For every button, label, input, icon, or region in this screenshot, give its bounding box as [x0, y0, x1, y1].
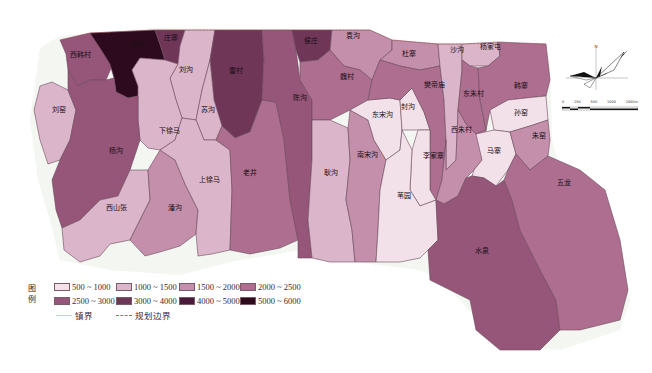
scale-tick: 500: [590, 100, 597, 104]
label-shuiquan: 水泉: [475, 246, 489, 255]
legend-label: 500 ~ 1000: [72, 282, 111, 292]
legend-swatch: [116, 297, 132, 305]
legend-swatch: [179, 283, 195, 291]
label-xishanzhang: 西山张: [106, 203, 127, 212]
label-weiyuan: 苇园: [397, 191, 411, 200]
label-wulong: 五龙: [557, 178, 571, 187]
legend-label: 5000 ~ 6000: [258, 296, 301, 306]
legend-title: 图例: [28, 282, 36, 304]
label-houzhuang: 侯庄: [304, 36, 318, 45]
legend-item-2000-2500: 2000 ~ 2500: [240, 282, 301, 292]
legend-label: 规划边界: [135, 309, 171, 321]
label-dongsonggou: 东宋沟: [372, 110, 393, 119]
label-fenggou: 封沟: [401, 102, 415, 111]
choropleth-map: 西韩村 韩村 庄寨 刘沟 雷村 苏沟 下徐马 刘窑 杨沟 西山张 潘沟 上徐马 …: [0, 0, 652, 373]
label-genggou: 耿沟: [324, 168, 338, 177]
label-dongzhucun: 东朱村: [463, 89, 484, 98]
scale-bar-graphic: [562, 106, 638, 112]
legend-label: 2500 ~ 3000: [72, 296, 115, 306]
legend-item-2500-3000: 2500 ~ 3000: [54, 296, 115, 306]
legend-item-town-boundary: 镇界: [56, 309, 93, 321]
legend-item-plan-boundary: 规划边界: [116, 309, 171, 321]
scale-bar: 0 250 500 1000 2000m: [562, 98, 638, 118]
label-yangjiatun: 杨家屯: [480, 42, 501, 51]
label-zhuyao: 朱窑: [532, 131, 546, 140]
legend-swatch: [240, 297, 256, 305]
legend-label: 镇界: [75, 309, 93, 321]
label-xihancun: 西韩村: [70, 50, 91, 59]
scale-tick: 2000m: [626, 100, 638, 104]
label-sugou: 苏沟: [201, 105, 215, 114]
label-liugou: 刘沟: [179, 65, 193, 74]
label-xiaxuma: 下徐马: [159, 126, 180, 135]
label-weicun: 魏村: [340, 72, 354, 81]
legend-item-500-1000: 500 ~ 1000: [54, 282, 111, 292]
legend-swatch: [116, 283, 132, 291]
plan-boundary-line-icon: [116, 315, 132, 316]
svg-text:N: N: [595, 44, 598, 49]
legend-label: 4000 ~ 5000: [197, 296, 240, 306]
legend-label: 3000 ~ 4000: [134, 296, 177, 306]
label-mazhai: 马寨: [487, 146, 501, 155]
legend-label: 1000 ~ 1500: [134, 282, 177, 292]
legend-label: 1500 ~ 2000: [197, 282, 240, 292]
legend-swatch: [54, 283, 70, 291]
label-shagou: 沙沟: [450, 45, 464, 54]
town-boundary-line-icon: [56, 315, 72, 316]
label-zhuangzhai: 庄寨: [164, 33, 178, 42]
scale-tick: 0: [562, 100, 564, 104]
label-lijiazhai: 李家寨: [423, 151, 444, 160]
label-nansonggou: 南宋沟: [357, 150, 378, 159]
legend-swatch: [240, 283, 256, 291]
scale-tick: 1000: [607, 100, 616, 104]
scale-ticks: 0 250 500 1000 2000m: [562, 100, 638, 104]
label-duzhai: 杜寨: [402, 49, 416, 58]
label-sunyao: 孙窑: [514, 108, 528, 117]
label-leicun: 雷村: [229, 66, 243, 75]
north-arrow-icon: N: [562, 44, 632, 100]
legend-swatch: [179, 297, 195, 305]
legend-swatch: [54, 297, 70, 305]
label-liuyao: 刘窑: [52, 105, 66, 114]
label-shangxuma: 上徐马: [199, 175, 220, 184]
label-laojing: 老井: [243, 168, 257, 177]
label-hanzhai: 韩寨: [514, 81, 528, 90]
label-fandimiao: 樊帝庙: [424, 80, 445, 89]
legend-item-1500-2000: 1500 ~ 2000: [179, 282, 240, 292]
label-xizhucun: 西朱村: [451, 125, 472, 134]
label-pangou: 潘沟: [168, 203, 182, 212]
label-chengou: 陈沟: [293, 93, 307, 102]
legend-item-4000-5000: 4000 ~ 5000: [179, 296, 240, 306]
legend-label: 2000 ~ 2500: [258, 282, 301, 292]
scale-tick: 250: [574, 100, 581, 104]
label-yuangou: 袁沟: [346, 31, 360, 40]
label-hancun: 韩村: [131, 40, 145, 49]
legend-item-1000-1500: 1000 ~ 1500: [116, 282, 177, 292]
legend-item-5000-6000: 5000 ~ 6000: [240, 296, 301, 306]
label-yanggou: 杨沟: [109, 146, 123, 155]
legend-item-3000-4000: 3000 ~ 4000: [116, 296, 177, 306]
